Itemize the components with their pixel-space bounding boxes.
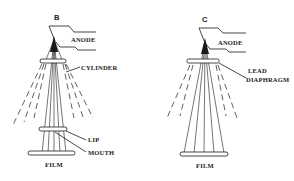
diaphragm-leader [219,63,246,78]
label-mouth: MOUTH [88,149,114,156]
diagram-c-title: C [202,15,208,24]
diagram-c: C ANODE LEAD DIAPHRAGM FILM [167,15,289,169]
lead-diaphragm [187,59,219,63]
diagram-b-title: B [54,13,60,22]
film-b [28,151,75,155]
xray-diagram-figure: B [0,0,294,181]
scatter-rays-b [13,64,93,125]
film-c [180,152,228,156]
lip-leader [66,131,86,140]
label-film-b: FILM [45,161,63,168]
label-anode-b: ANODE [71,36,95,43]
beam-rays-b [42,40,66,153]
lip-ring [39,127,67,131]
label-lead: LEAD [248,67,267,74]
diagram-b: B [13,13,117,168]
label-diaphragm: DIAPHRAGM [246,76,289,83]
label-lip: LIP [88,136,99,143]
label-cylinder: CYLINDER [81,64,117,71]
label-anode-c: ANODE [218,39,242,46]
label-film-c: FILM [196,162,214,169]
cylinder-ring [40,59,66,63]
